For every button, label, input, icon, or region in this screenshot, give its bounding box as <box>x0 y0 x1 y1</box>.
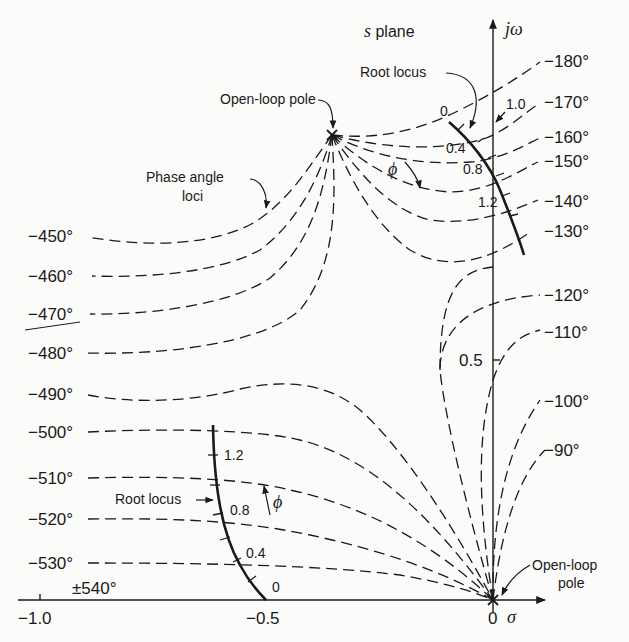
phase-label-minus-470: −470° <box>28 306 73 323</box>
locus-minus-160 <box>332 135 540 163</box>
phase-label-minus-90: −90° <box>544 442 580 459</box>
x-tick-minus-1: −1.0 <box>18 610 52 627</box>
phase-label-minus-130: −130° <box>544 223 589 240</box>
gain-upper-1.2: 1.2 <box>478 195 497 209</box>
gain-lower-0.4: 0.4 <box>246 546 265 560</box>
arrow-gain-1.0 <box>496 112 505 122</box>
phase-label-minus-180: −180° <box>544 53 589 70</box>
phase-label-minus-500: −500° <box>28 424 73 441</box>
gain-upper-0.8: 0.8 <box>463 162 482 176</box>
x-tick-minus-0.5: −0.5 <box>246 610 280 627</box>
open-loop-pole-top-label: Open-loop pole <box>220 92 316 106</box>
phase-label-minus-510: −510° <box>28 470 73 487</box>
s-plane-title: s plane <box>364 22 415 40</box>
phase-label-minus-150: −150° <box>544 153 589 170</box>
arrow-root-locus-top <box>446 73 476 128</box>
locus-minus-90 <box>493 450 545 600</box>
open-loop-pole-origin-label-1: Open-loop <box>532 558 597 572</box>
phase-label-minus-490: −490° <box>28 386 73 403</box>
gain-lower-0: 0 <box>272 580 280 594</box>
jw-axis-label: jω <box>505 20 523 38</box>
phase-angle-loci-label-2: loci <box>182 189 203 203</box>
locus-minus-120 <box>440 295 540 600</box>
axes <box>18 20 545 612</box>
phi-symbol-bottom: ϕ <box>273 493 282 511</box>
phase-label-minus-520: −520° <box>28 511 73 528</box>
phase-label-minus-100: −100° <box>544 393 589 410</box>
locus-minus-470 <box>90 135 332 314</box>
phi-symbol-top: ϕ <box>388 160 397 178</box>
arrow-phi-bottom <box>264 486 270 515</box>
locus-minus-130 <box>332 135 530 262</box>
arrow-phase-loci <box>250 179 266 208</box>
phase-label-minus-110: −110° <box>544 324 588 341</box>
locus-minus-500 <box>88 430 493 600</box>
arrow-open-loop-pole-origin <box>502 565 530 595</box>
phase-angle-loci <box>86 62 545 600</box>
locus-minus-450 <box>88 135 332 243</box>
locus-minus-460 <box>92 135 332 276</box>
phase-label-minus-530: −530° <box>28 555 73 572</box>
phase-label-minus-140: −140° <box>544 193 589 210</box>
arrow-open-loop-pole-top <box>318 100 333 128</box>
sigma-axis-label: σ <box>507 608 516 626</box>
root-locus-bottom-label: Root locus <box>115 492 181 506</box>
gain-lower-1.2: 1.2 <box>224 448 243 462</box>
phase-angle-loci-label-1: Phase angle <box>146 170 224 184</box>
locus-minus-480 <box>86 135 334 353</box>
locus-minus-530 <box>88 563 493 600</box>
gain-lower-0.8: 0.8 <box>230 503 249 517</box>
gain-upper-0: 0 <box>440 104 448 118</box>
phase-label-minus-460: −460° <box>28 268 73 285</box>
open-loop-pole-origin-label-2: pole <box>558 576 584 590</box>
root-locus-top-label: Root locus <box>360 65 426 79</box>
phase-label-minus-120: −120° <box>544 287 589 304</box>
phase-label-minus-480: −480° <box>28 345 73 362</box>
phase-label-minus-170: −170° <box>544 94 589 111</box>
gain-upper-0.4: 0.4 <box>446 141 465 155</box>
gain-upper-1.0: 1.0 <box>506 97 525 111</box>
phase-label-minus-450: −450° <box>28 228 73 245</box>
y-tick-0.5: 0.5 <box>459 352 483 369</box>
x-tick-0: 0 <box>488 610 497 627</box>
phase-label-minus-160: −160° <box>544 129 589 146</box>
locus-minus-150 <box>332 135 538 192</box>
arrow-phi-top <box>405 162 420 188</box>
phase-label-plus-minus-540: ±540° <box>72 580 117 597</box>
locus-minus-520 <box>88 519 493 600</box>
